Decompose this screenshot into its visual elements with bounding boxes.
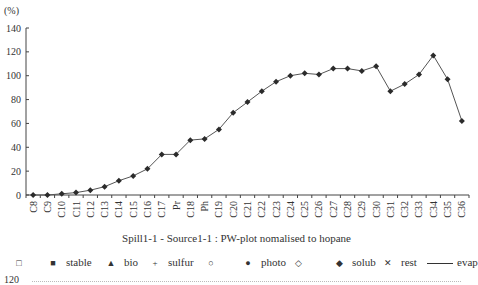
legend-item-solub: ◆solub xyxy=(334,256,376,268)
data-point-diamond xyxy=(130,173,136,179)
data-point-diamond xyxy=(445,76,451,82)
x-tick-label: C12 xyxy=(85,201,96,218)
asterisk-icon: ✕ xyxy=(383,258,393,268)
data-point-diamond xyxy=(287,73,293,79)
data-point-diamond xyxy=(87,187,93,193)
x-tick-label: C19 xyxy=(213,201,224,218)
x-tick-label: C21 xyxy=(242,201,253,218)
x-tick-label: C8 xyxy=(28,201,39,213)
x-tick-label: C33 xyxy=(413,201,424,218)
legend-item-open-square: □ xyxy=(14,256,32,268)
next-chart-gridline xyxy=(32,281,461,282)
x-tick-label: C34 xyxy=(428,201,439,218)
y-tick-label: 120 xyxy=(6,46,21,57)
data-point-diamond xyxy=(59,191,65,197)
data-point-diamond xyxy=(316,72,322,78)
next-chart-ytick: 120 xyxy=(4,274,19,285)
x-tick-label: C28 xyxy=(342,201,353,218)
line-icon xyxy=(427,263,453,264)
x-tick-label: Ph xyxy=(199,201,210,212)
y-tick-label: 0 xyxy=(16,190,21,201)
x-tick-label: C10 xyxy=(56,201,67,218)
x-tick-label: C27 xyxy=(328,201,339,218)
x-tick-label: C26 xyxy=(313,201,324,218)
data-point-diamond xyxy=(302,70,308,76)
data-point-diamond xyxy=(402,81,408,87)
x-tick-label: C16 xyxy=(142,201,153,218)
data-point-diamond xyxy=(345,66,351,72)
x-tick-label: C22 xyxy=(256,201,267,218)
filled-diamond-icon: ◆ xyxy=(334,258,344,268)
filled-circle-icon: ● xyxy=(243,258,253,268)
legend-item-rest: ✕rest xyxy=(383,256,417,268)
legend-item-open-circle: ○ xyxy=(206,256,224,268)
y-axis-label: (%) xyxy=(4,5,19,17)
open-square-icon: □ xyxy=(14,258,24,268)
x-tick-label: C23 xyxy=(271,201,282,218)
y-tick-label: 80 xyxy=(11,94,21,105)
data-point-diamond xyxy=(459,118,465,124)
plus-icon: + xyxy=(150,258,160,268)
x-tick-label: C20 xyxy=(228,201,239,218)
x-tick-label: C14 xyxy=(113,201,124,218)
y-tick-label: 140 xyxy=(6,23,21,34)
x-tick-label: Pr xyxy=(171,200,182,210)
x-tick-label: C25 xyxy=(299,201,310,218)
legend-item-photo: ●photo xyxy=(243,256,286,268)
x-tick-label: C11 xyxy=(71,201,82,217)
x-tick-label: C32 xyxy=(399,201,410,218)
data-point-diamond xyxy=(116,178,122,184)
open-circle-icon: ○ xyxy=(206,258,216,268)
x-tick-label: C9 xyxy=(42,201,53,213)
data-point-diamond xyxy=(102,184,108,190)
legend-item-open-diamond: ◇ xyxy=(293,256,311,268)
legend-item-evap: evap xyxy=(427,256,478,268)
legend-item-bio: ▲bio xyxy=(106,256,138,268)
data-point-diamond xyxy=(387,88,393,94)
pw-plot-chart: (%)020406080100120140C8C9C10C11C12C13C14… xyxy=(0,0,473,232)
open-diamond-icon: ◇ xyxy=(293,258,303,268)
y-tick-label: 20 xyxy=(11,166,21,177)
legend-item-sulfur: +sulfur xyxy=(150,256,194,268)
triangle-icon: ▲ xyxy=(106,258,116,268)
y-tick-label: 60 xyxy=(11,118,21,129)
y-tick-label: 100 xyxy=(6,70,21,81)
filled-square-icon: ■ xyxy=(48,258,58,268)
y-tick-label: 40 xyxy=(11,142,21,153)
x-tick-label: C31 xyxy=(385,201,396,218)
data-point-diamond xyxy=(373,63,379,69)
x-tick-label: C15 xyxy=(128,201,139,218)
data-point-diamond xyxy=(273,79,279,85)
data-point-diamond xyxy=(359,68,365,74)
x-tick-label: C35 xyxy=(442,201,453,218)
series-line xyxy=(33,55,462,195)
x-tick-label: C17 xyxy=(156,201,167,218)
x-tick-label: C18 xyxy=(185,201,196,218)
data-point-diamond xyxy=(44,192,50,198)
data-point-diamond xyxy=(30,192,36,198)
legend: □ ■stable ▲bio +sulfur ○ ●photo ◇ ◆solub… xyxy=(0,256,473,270)
chart-title: Spill1-1 - Source1-1 : PW-plot nomalised… xyxy=(0,232,473,244)
x-tick-label: C24 xyxy=(285,201,296,218)
x-tick-label: C29 xyxy=(356,201,367,218)
legend-item-stable: ■stable xyxy=(48,256,92,268)
data-point-diamond xyxy=(202,136,208,142)
x-tick-label: C36 xyxy=(456,201,467,218)
x-tick-label: C13 xyxy=(99,201,110,218)
x-tick-label: C30 xyxy=(371,201,382,218)
data-point-diamond xyxy=(330,66,336,72)
